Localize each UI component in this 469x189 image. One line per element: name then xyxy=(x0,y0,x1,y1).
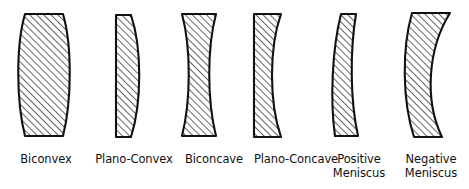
lens-shape-biconvex xyxy=(18,14,70,136)
lens-label-plano-convex: Plano-Convex xyxy=(88,152,180,166)
lens-label-biconvex: Biconvex xyxy=(6,152,86,166)
lens-label-negative-meniscus: Negative Meniscus xyxy=(396,152,466,180)
lens-shape-plano-convex xyxy=(116,15,139,137)
lens-shape-group xyxy=(18,13,450,137)
lens-shapes-diagram: Biconvex Plano-Convex Biconcave Plano-Co… xyxy=(0,0,469,189)
lens-shape-positive-meniscus xyxy=(332,14,358,136)
lens-label-positive-meniscus: Positive Meniscus xyxy=(326,152,392,180)
lens-shape-negative-meniscus xyxy=(405,13,450,137)
lens-label-biconcave: Biconcave xyxy=(174,152,254,166)
lens-shape-biconcave xyxy=(182,14,216,136)
lens-shape-plano-concave xyxy=(254,14,281,137)
